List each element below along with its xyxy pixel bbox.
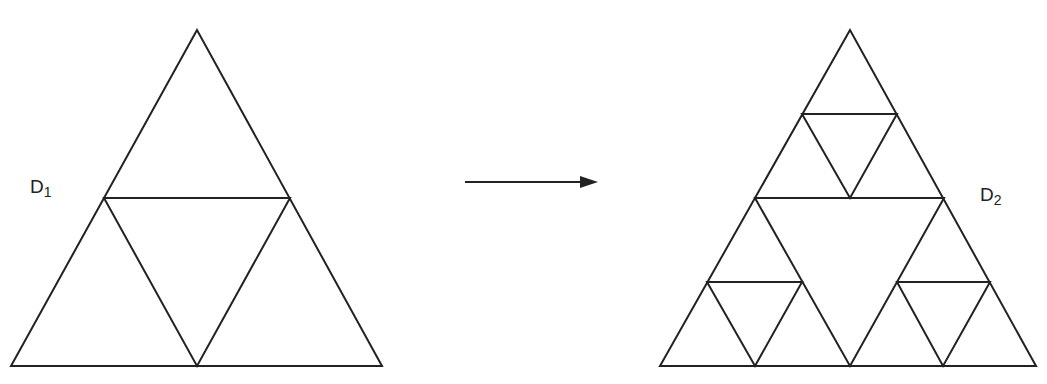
d1-inner-triangle: [104, 198, 290, 366]
label-d1-main: D: [30, 176, 44, 197]
d2-top-inner-triangle: [802, 114, 897, 198]
diagram-canvas: [0, 0, 1047, 384]
arrow-icon: [465, 176, 598, 188]
label-d2: D2: [980, 184, 1002, 208]
d1-triangle: [11, 30, 382, 366]
d2-left-inner-triangle: [707, 282, 802, 366]
label-d1: D1: [30, 176, 52, 200]
label-d2-subscript: 2: [994, 192, 1002, 208]
label-d2-main: D: [980, 184, 994, 205]
label-d1-subscript: 1: [44, 184, 52, 200]
d2-right-inner-triangle: [897, 282, 990, 366]
